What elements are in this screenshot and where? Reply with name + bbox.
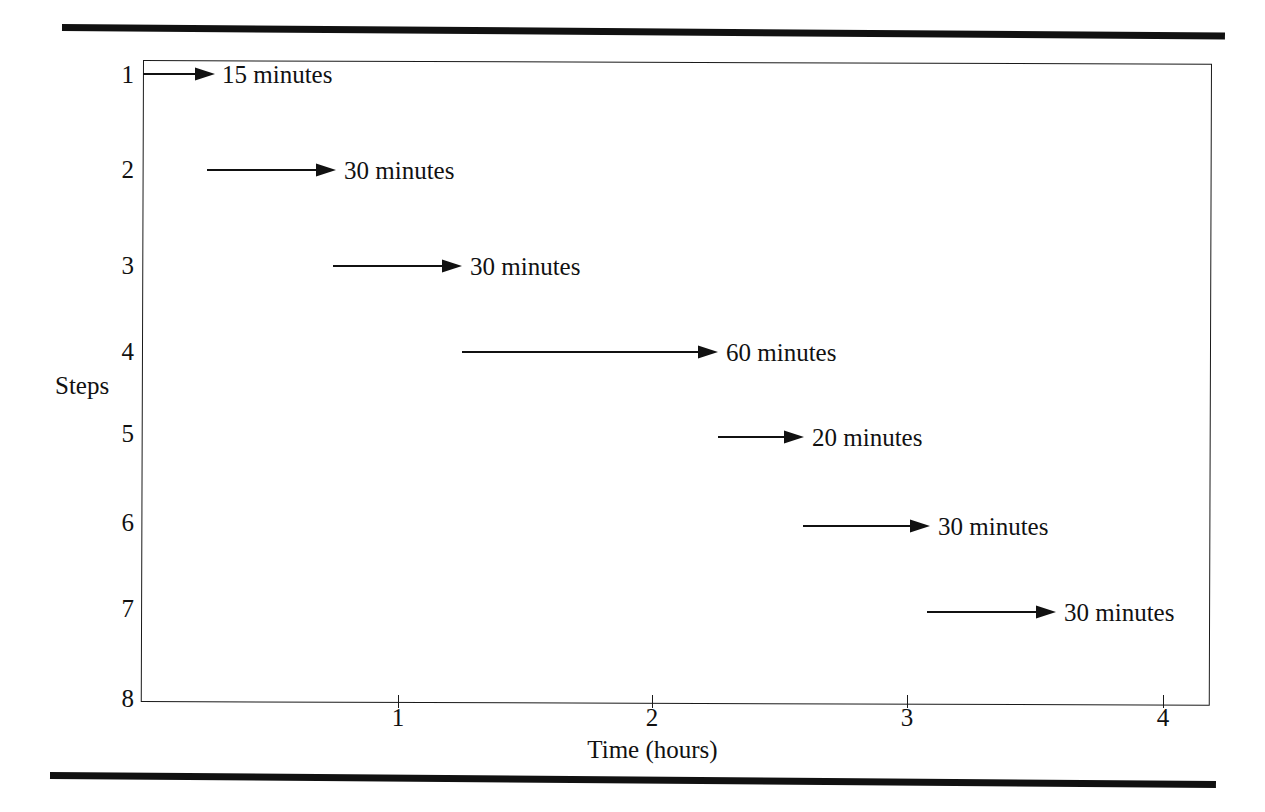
task-label-3: 30 minutes bbox=[470, 254, 580, 279]
y-tick-label-8: 8 bbox=[94, 686, 134, 711]
y-tick-label-4: 4 bbox=[94, 339, 134, 364]
y-axis-title: Steps bbox=[55, 373, 109, 398]
task-arrow-5 bbox=[718, 426, 804, 448]
bottom-rule bbox=[50, 772, 1216, 788]
gantt-figure: 1 2 3 4 5 6 7 8 Steps 1 2 3 4 Time (hour… bbox=[0, 0, 1265, 812]
task-label-2: 30 minutes bbox=[344, 158, 454, 183]
x-tick-label-3: 3 bbox=[887, 705, 927, 730]
x-axis-title: Time (hours) bbox=[0, 737, 1265, 762]
x-tick-label-2: 2 bbox=[632, 705, 672, 730]
task-arrow-2 bbox=[207, 159, 336, 181]
task-label-4: 60 minutes bbox=[726, 340, 836, 365]
y-tick-label-7: 7 bbox=[94, 596, 134, 621]
y-tick-label-2: 2 bbox=[94, 157, 134, 182]
x-axis-title-text: Time (hours) bbox=[587, 737, 717, 762]
x-tick-label-4: 4 bbox=[1143, 705, 1183, 730]
task-label-1: 15 minutes bbox=[222, 62, 332, 87]
y-tick-label-5: 5 bbox=[94, 421, 134, 446]
y-axis-tick-labels: 1 2 3 4 5 6 7 8 bbox=[88, 0, 134, 812]
y-tick-label-3: 3 bbox=[94, 253, 134, 278]
y-tick-label-1: 1 bbox=[94, 62, 134, 87]
x-tick-label-1: 1 bbox=[378, 705, 418, 730]
task-label-6: 30 minutes bbox=[938, 514, 1048, 539]
task-arrow-4 bbox=[462, 341, 718, 363]
task-arrow-6 bbox=[803, 515, 930, 537]
task-arrow-3 bbox=[333, 255, 462, 277]
top-rule bbox=[62, 24, 1225, 40]
y-tick-label-6: 6 bbox=[94, 510, 134, 535]
task-arrow-7 bbox=[927, 601, 1056, 623]
task-label-7: 30 minutes bbox=[1064, 600, 1174, 625]
task-arrow-1 bbox=[143, 63, 215, 85]
task-label-5: 20 minutes bbox=[812, 425, 922, 450]
